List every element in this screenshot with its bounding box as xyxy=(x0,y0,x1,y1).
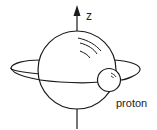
z-axis-label: z xyxy=(86,9,92,23)
proton-label: proton xyxy=(116,97,147,109)
proton-spin-diagram: z proton xyxy=(0,0,157,130)
z-axis-arrowhead-icon xyxy=(74,5,81,16)
orbit-ellipse-back xyxy=(11,60,40,74)
proton-sphere xyxy=(98,69,121,92)
